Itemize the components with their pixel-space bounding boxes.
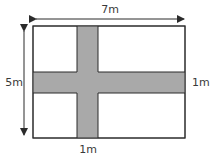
vertical-path-width-label: 1m bbox=[79, 143, 97, 156]
height-label: 5m bbox=[5, 76, 23, 89]
horizontal-path bbox=[33, 72, 185, 93]
width-label: 7m bbox=[101, 3, 119, 16]
vertical-path bbox=[77, 26, 98, 138]
cross-path-diagram: 7m 5m 1m 1m bbox=[0, 0, 214, 160]
horizontal-path-width-label: 1m bbox=[192, 76, 210, 89]
